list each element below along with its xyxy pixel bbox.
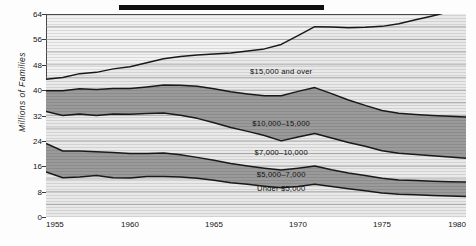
y-axis-title: Millions of Families xyxy=(17,32,27,152)
y-tick-mark-64 xyxy=(42,14,46,15)
y-tick-40: 40 xyxy=(33,86,42,95)
plot-area: 0816243240485664 19551960196519701975198… xyxy=(46,14,466,217)
x-tick-1975: 1975 xyxy=(373,220,391,229)
x-tick-1960: 1960 xyxy=(121,220,139,229)
band-label-2: $7,000–10,000 xyxy=(255,147,308,156)
y-tick-mark-32 xyxy=(42,116,46,117)
band-label-1: $10,000–15,000 xyxy=(252,119,310,128)
band-label-0: $15,000 and over xyxy=(250,67,312,76)
y-tick-56: 56 xyxy=(33,35,42,44)
band-label-3: $5,000–7,000 xyxy=(257,170,306,179)
x-tick-1970: 1970 xyxy=(289,220,307,229)
x-tick-1965: 1965 xyxy=(205,220,223,229)
chart-screenshot: Millions of Families 0816243240485664 19… xyxy=(0,0,476,246)
y-tick-64: 64 xyxy=(33,10,42,19)
y-tick-mark-56 xyxy=(42,39,46,40)
band-label-4: Under $5,000 xyxy=(257,183,305,192)
y-tick-48: 48 xyxy=(33,60,42,69)
y-tick-mark-48 xyxy=(42,65,46,66)
y-tick-mark-16 xyxy=(42,166,46,167)
x-tick-1980: 1980 xyxy=(448,220,466,229)
y-tick-24: 24 xyxy=(33,136,42,145)
redacted-title-bar xyxy=(119,5,324,10)
y-tick-mark-8 xyxy=(42,192,46,193)
y-tick-mark-0 xyxy=(42,217,46,218)
y-tick-mark-24 xyxy=(42,141,46,142)
x-tick-1955: 1955 xyxy=(46,220,64,229)
y-tick-mark-40 xyxy=(42,90,46,91)
y-tick-16: 16 xyxy=(33,162,42,171)
y-tick-32: 32 xyxy=(33,111,42,120)
